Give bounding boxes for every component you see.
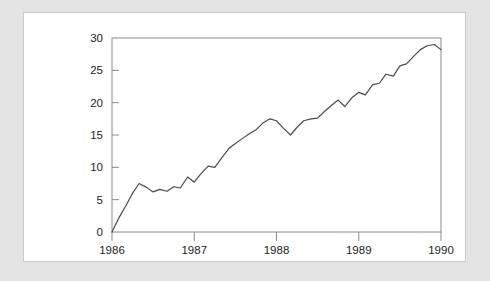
x-axis-tick-label: 1990 <box>428 244 454 256</box>
x-axis-tick-label: 1988 <box>264 244 290 256</box>
data-line-series-1 <box>112 44 441 232</box>
y-axis-tick-label: 20 <box>90 97 103 109</box>
y-axis-tick-label: 15 <box>90 129 103 141</box>
line-chart: 05101520253019861987198819891990 <box>0 0 490 281</box>
x-axis-tick-label: 1989 <box>346 244 372 256</box>
data-series-group <box>112 44 441 232</box>
y-axis-tick-label: 0 <box>97 226 103 238</box>
y-axis-tick-label: 25 <box>90 64 103 76</box>
y-axis-tick-label: 5 <box>97 194 103 206</box>
y-axis-tick-label: 10 <box>90 161 103 173</box>
chart-figure: 05101520253019861987198819891990 <box>0 0 490 281</box>
axes-group <box>112 38 441 241</box>
x-axis-tick-label: 1987 <box>181 244 207 256</box>
plot-area-border <box>112 38 441 232</box>
y-axis-tick-label: 30 <box>90 32 103 44</box>
x-axis-tick-label: 1986 <box>99 244 125 256</box>
tick-labels-group: 05101520253019861987198819891990 <box>90 32 454 256</box>
